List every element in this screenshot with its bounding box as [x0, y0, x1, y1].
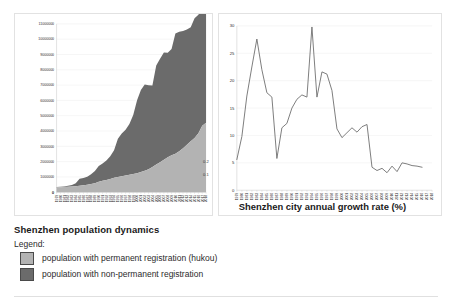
x-axis-tick-label: 2017	[425, 193, 429, 201]
x-axis-tick-label: 2018	[430, 193, 434, 201]
y-axis-tick-label: 2000000	[40, 160, 54, 164]
caption-and-legend: Shenzhen population dynamics Legend: pop…	[14, 224, 314, 284]
y-axis-tick-label: 3000000	[40, 145, 54, 149]
y-axis-tick-label: 25	[230, 51, 235, 56]
x-axis-tick-label: 1985	[265, 193, 269, 201]
x-axis-tick-label: 1999	[335, 193, 339, 201]
x-axis-tick-label: 1980	[240, 193, 244, 201]
x-axis-tick-label: 1982	[250, 193, 254, 201]
figure-title: Shenzhen population dynamics	[14, 224, 314, 235]
y-axis-tick-label: 5	[232, 160, 235, 165]
x-axis-tick-label: 2002	[350, 193, 354, 201]
y-axis-tick-label: 15	[230, 106, 235, 111]
legend-swatch	[20, 268, 34, 281]
y-axis-origin-label: 0	[52, 191, 54, 195]
population-dynamics-svg: 0100000020000003000000400000050000006000…	[15, 14, 212, 215]
side-note-upper: 0.2	[203, 159, 209, 164]
x-axis-tick-label: 1990	[290, 193, 294, 201]
x-axis-tick-label: 2010	[390, 193, 394, 201]
x-axis-tick-label: 1996	[320, 193, 324, 201]
x-axis-tick-label: 2009	[385, 193, 389, 201]
y-axis-tick-label: 7000000	[40, 83, 54, 87]
x-axis-tick-label: 2006	[370, 193, 374, 201]
y-axis-tick-label: 30	[230, 23, 235, 28]
x-axis-tick-label: 2007	[375, 193, 379, 201]
legend-item-label: population with permanent registration (…	[42, 253, 217, 264]
legend-list: population with permanent registration (…	[14, 252, 314, 281]
side-note-lower: 0.1	[203, 172, 209, 177]
y-axis-tick-label: 6000000	[40, 99, 54, 103]
y-axis-tick-label: 10	[230, 133, 235, 138]
x-axis-tick-label: 1983	[255, 193, 259, 201]
annual-growth-rate-title: Shenzhen city annual growth rate (%)	[239, 201, 406, 212]
annual-growth-rate-chart: 0510152025301979198019811982198319841985…	[218, 13, 442, 216]
x-axis-tick-label: 1979	[235, 193, 239, 201]
x-axis-tick-label: 2011	[395, 193, 399, 200]
y-axis-tick-label: 10000000	[38, 37, 54, 41]
x-axis-tick-label: 2004	[360, 193, 364, 201]
y-axis-tick-label: 9000000	[40, 53, 54, 57]
x-axis-tick-label: 2015	[415, 193, 419, 201]
x-axis-tick-label: 1984	[260, 193, 264, 201]
x-axis-tick-label: 2018	[204, 195, 208, 203]
legend-item: population with non-permanent registrati…	[14, 268, 314, 281]
y-axis-tick-label: 1000000	[40, 175, 54, 179]
annual-growth-rate-svg: 0510152025301979198019811982198319841985…	[219, 14, 441, 215]
x-axis-tick-label: 1986	[270, 193, 274, 201]
y-axis-tick-label: 0	[232, 188, 235, 193]
y-axis-tick-label: 8000000	[40, 68, 54, 72]
bottom-divider	[14, 296, 438, 297]
x-axis-tick-label: 2000	[340, 193, 344, 201]
legend-item: population with permanent registration (…	[14, 252, 314, 265]
legend-item-label: population with non-permanent registrati…	[42, 269, 203, 280]
x-axis-tick-label: 1997	[325, 193, 329, 201]
x-axis-tick-label: 2016	[420, 193, 424, 201]
x-axis-tick-label: 2008	[380, 193, 384, 201]
x-axis-tick-label: 1981	[245, 193, 249, 201]
annual-growth-rate-plot-area: 0510152025301979198019811982198319841985…	[219, 14, 441, 215]
x-axis-tick-label: 1993	[305, 193, 309, 201]
y-axis-tick-label: 5000000	[40, 114, 54, 118]
legend-heading: Legend:	[14, 239, 314, 249]
x-axis-tick-label: 1992	[300, 193, 304, 201]
x-axis-tick-label: 1995	[315, 193, 319, 201]
x-axis-tick-label: 2012	[400, 193, 404, 201]
x-axis-tick-label: 2003	[355, 193, 359, 201]
x-axis-tick-label: 1991	[295, 193, 299, 201]
x-axis-tick-label: 1994	[310, 193, 314, 201]
x-axis-tick-label: 1998	[330, 193, 334, 201]
x-axis-tick-label: 2013	[405, 193, 409, 201]
y-axis-tick-label: 11000000	[39, 22, 55, 26]
y-axis-tick-label: 4000000	[40, 129, 54, 133]
charts-row: 0100000020000003000000400000050000006000…	[0, 0, 450, 222]
x-axis-tick-label: 1988	[280, 193, 284, 201]
x-axis-tick-label: 1989	[285, 193, 289, 201]
x-axis-tick-label: 2001	[345, 193, 349, 201]
y-axis-tick-label: 20	[230, 78, 235, 83]
x-axis-tick-label: 1987	[275, 193, 279, 201]
x-axis-tick-label: 2005	[365, 193, 369, 201]
x-axis-tick-label: 2014	[410, 193, 414, 201]
growth-rate-line	[237, 27, 422, 173]
legend-swatch	[20, 252, 34, 265]
population-dynamics-plot-area: 0100000020000003000000400000050000006000…	[15, 14, 212, 215]
population-dynamics-chart: 0100000020000003000000400000050000006000…	[14, 13, 213, 216]
